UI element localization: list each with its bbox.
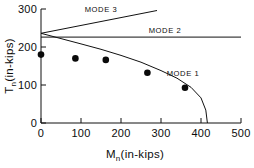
- x-ticklabel-100: 100: [72, 127, 91, 139]
- data-point: [103, 57, 110, 64]
- x-ticklabel-300: 300: [152, 127, 171, 139]
- chart-container: 300 200 100 0 0 100 200 300 400 500 MODE…: [0, 0, 254, 168]
- y-ticklabel-200: 200: [18, 41, 37, 53]
- y-axis-title: Tn(in-kips): [3, 38, 18, 94]
- y-ticklabel-100: 100: [18, 79, 37, 91]
- data-point: [72, 55, 79, 62]
- data-point: [38, 51, 45, 58]
- series-label-mode-2: MODE 2: [149, 26, 182, 35]
- chart-plot-area: 300 200 100 0 0 100 200 300 400 500 MODE…: [0, 0, 254, 168]
- series-label-mode-1: MODE 1: [167, 69, 200, 78]
- y-ticklabel-300: 300: [18, 3, 37, 15]
- y-axis-title-unit: (in-kips): [3, 38, 15, 82]
- x-ticklabel-400: 400: [192, 127, 211, 139]
- y-ticklabel-0: 0: [31, 117, 37, 129]
- y-axis-title-main: T: [3, 87, 15, 94]
- x-ticklabel-500: 500: [232, 127, 251, 139]
- series-curve-mode-1: [41, 33, 207, 123]
- x-ticklabel-0: 0: [38, 127, 44, 139]
- series-label-mode-3: MODE 3: [85, 5, 118, 14]
- x-axis-title: Mn(in-kips): [106, 148, 164, 163]
- x-axis-title-unit: (in-kips): [121, 148, 165, 160]
- data-point: [144, 70, 151, 77]
- x-ticklabel-200: 200: [112, 127, 131, 139]
- x-axis-title-main: M: [106, 148, 116, 160]
- data-point: [182, 84, 189, 91]
- svg-text:Tn(in-kips): Tn(in-kips): [3, 38, 18, 94]
